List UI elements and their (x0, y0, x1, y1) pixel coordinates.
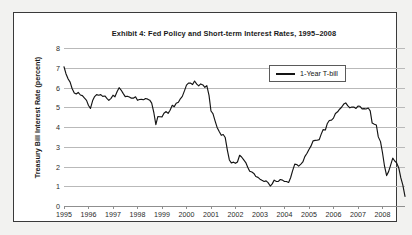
chart-title: Exhibit 4: Fed Policy and Short-term Int… (54, 29, 394, 38)
chart-legend: 1-Year T-bill (269, 65, 346, 82)
x-tick-mark-2006 (333, 206, 334, 209)
x-tick-label-2007: 2007 (350, 211, 366, 219)
x-tick-label-2003: 2003 (252, 211, 268, 219)
y-tick-label-0: 0 (44, 202, 60, 211)
legend-line-swatch (276, 73, 295, 75)
y-axis-title: Treasury Bill Interest Rate (percent) (33, 33, 42, 203)
x-tick-mark-1996 (88, 206, 89, 209)
x-tick-label-1999: 1999 (154, 211, 170, 219)
x-tick-mark-2001 (211, 206, 212, 209)
x-tick-label-2004: 2004 (277, 211, 293, 219)
y-tick-label-7: 7 (44, 63, 60, 72)
y-tick-label-6: 6 (44, 83, 60, 92)
y-tick-label-8: 8 (44, 44, 60, 53)
x-tick-label-2002: 2002 (228, 211, 244, 219)
x-tick-label-2001: 2001 (203, 211, 219, 219)
x-tick-mark-2002 (235, 206, 236, 209)
plot-area: 012345678 199519961997199819992000200120… (64, 48, 405, 206)
y-tick-label-1: 1 (44, 182, 60, 191)
x-tick-label-2005: 2005 (301, 211, 317, 219)
legend-label: 1-Year T-bill (300, 69, 338, 78)
x-tick-mark-2004 (284, 206, 285, 209)
x-tick-label-1995: 1995 (56, 211, 72, 219)
chart-frame: Exhibit 4: Fed Policy and Short-term Int… (13, 12, 397, 222)
y-tick-label-4: 4 (44, 123, 60, 132)
x-tick-label-1998: 1998 (130, 211, 146, 219)
x-tick-mark-1999 (162, 206, 163, 209)
y-tick-label-5: 5 (44, 103, 60, 112)
x-tick-mark-2008 (382, 206, 383, 209)
y-tick-label-2: 2 (44, 162, 60, 171)
series-line-1-year-t-bill (64, 48, 405, 206)
x-tick-mark-2000 (186, 206, 187, 209)
x-tick-mark-1995 (64, 206, 65, 209)
x-tick-mark-1998 (137, 206, 138, 209)
x-tick-label-1997: 1997 (105, 211, 121, 219)
y-tick-label-3: 3 (44, 142, 60, 151)
x-tick-mark-2003 (260, 206, 261, 209)
x-tick-mark-1997 (113, 206, 114, 209)
x-tick-label-1996: 1996 (81, 211, 97, 219)
x-tick-mark-2005 (309, 206, 310, 209)
x-tick-label-2006: 2006 (326, 211, 342, 219)
x-tick-mark-2007 (358, 206, 359, 209)
x-tick-label-2008: 2008 (375, 211, 391, 219)
chart-figure: Exhibit 4: Fed Policy and Short-term Int… (0, 0, 412, 235)
x-tick-label-2000: 2000 (179, 211, 195, 219)
